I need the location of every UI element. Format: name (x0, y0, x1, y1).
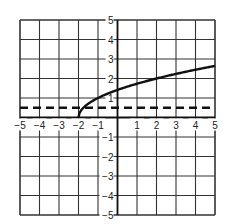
y-tick-label: 4 (108, 35, 114, 46)
y-tick-label: 5 (108, 15, 114, 26)
x-tick-label: −4 (34, 120, 46, 131)
coordinate-plane: −5−4−3−2−112345 −5−4−3−2−112345 (0, 0, 230, 224)
x-tick-label: 2 (154, 120, 160, 131)
x-tick-label: −3 (53, 120, 65, 131)
y-tick-label: −2 (102, 152, 114, 163)
x-tick-label: −2 (73, 120, 85, 131)
square-root-curve (79, 66, 216, 118)
x-tick-label: −1 (92, 120, 104, 131)
y-tick-label: 3 (108, 54, 114, 65)
x-tick-label: 5 (212, 120, 218, 131)
x-tick-label: 4 (193, 120, 199, 131)
y-tick-label: −5 (102, 210, 114, 221)
x-tick-label: −5 (14, 120, 26, 131)
y-tick-label: −4 (102, 191, 114, 202)
y-tick-label: −1 (102, 132, 114, 143)
y-tick-label: −3 (102, 171, 114, 182)
y-tick-label: 1 (108, 93, 114, 104)
y-tick-label: 2 (108, 74, 114, 85)
x-tick-label: 1 (134, 120, 140, 131)
x-tick-label: 3 (173, 120, 179, 131)
axes (20, 20, 215, 215)
